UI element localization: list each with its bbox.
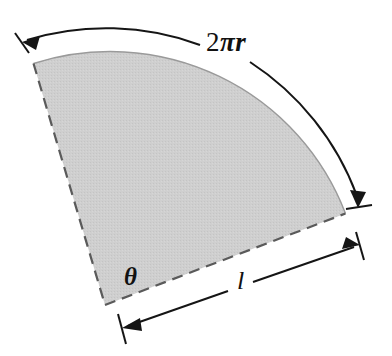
arc-dimension-line-left bbox=[27, 28, 200, 45]
geometry-diagram bbox=[0, 0, 392, 356]
slant-dimension-tick-end bbox=[356, 232, 364, 260]
slant-dimension-arrowhead-start bbox=[122, 318, 142, 331]
arc-length-label: 2πr bbox=[206, 29, 246, 56]
slant-dimension-tick-start bbox=[118, 314, 126, 344]
slant-dimension-line-right bbox=[253, 247, 354, 282]
figure-canvas: 2πr θ l bbox=[0, 0, 392, 356]
slant-length-label: l bbox=[237, 268, 244, 294]
slant-dimension-line-left bbox=[128, 291, 228, 326]
angle-label: θ bbox=[124, 264, 137, 289]
arc-length-number: 2 bbox=[206, 27, 220, 57]
arc-length-symbols: πr bbox=[220, 27, 246, 57]
